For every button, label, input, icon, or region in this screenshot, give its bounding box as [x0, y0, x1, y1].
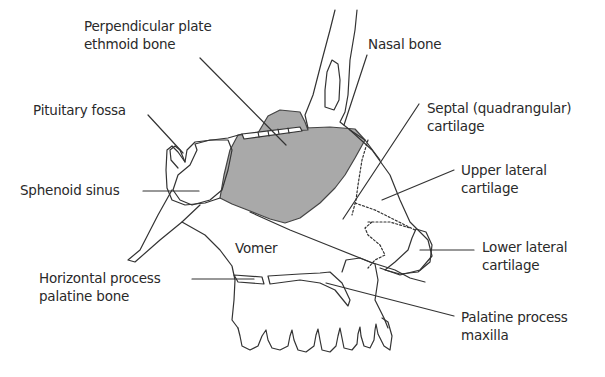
label-palatine-process: Palatine process maxilla: [461, 308, 568, 344]
leader-pituitary-fossa: [148, 115, 183, 153]
label-upper-lateral: Upper lateral cartilage: [461, 161, 547, 197]
pituitary-fossa-outline: [170, 146, 185, 168]
perpendicular-plate-region: [220, 127, 365, 223]
lower-lateral-cartilage-shape: [385, 229, 432, 274]
label-perpendicular-plate: Perpendicular plate ethmoid bone: [84, 17, 212, 53]
palatine-bone-shape: [268, 272, 350, 306]
label-lower-lateral: Lower lateral cartilage: [482, 238, 567, 274]
label-horizontal-process: Horizontal process palatine bone: [39, 269, 161, 305]
leader-palatine-process: [326, 283, 454, 316]
label-septal-cartilage: Septal (quadrangular) cartilage: [427, 99, 571, 135]
leader-upper-lateral: [382, 170, 454, 200]
vomer-outline: [182, 222, 238, 328]
label-nasal-bone: Nasal bone: [368, 35, 441, 53]
alar-dashed: [365, 222, 410, 268]
nasal-bone-outline: [305, 10, 335, 128]
label-pituitary-fossa: Pituitary fossa: [33, 101, 126, 119]
leader-septal-cartilage: [343, 104, 419, 219]
frontal-sinus-loop: [325, 60, 340, 110]
leader-perpendicular-plate: [200, 58, 286, 145]
upper-lateral-dashed: [355, 203, 415, 230]
nose-dorsum: [350, 130, 432, 275]
teeth: [238, 318, 392, 352]
label-vomer: Vomer: [235, 239, 277, 257]
leader-nasal-bone: [344, 55, 367, 125]
label-sphenoid-sinus: Sphenoid sinus: [20, 181, 120, 199]
